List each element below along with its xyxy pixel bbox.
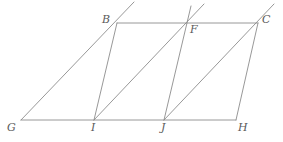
vertex-label-H: H bbox=[238, 122, 248, 133]
vertex-label-J: J bbox=[161, 122, 165, 133]
vertex-label-B: B bbox=[102, 14, 110, 25]
diagonal-G-B-extended bbox=[21, 2, 134, 120]
diagonal-J-C-extended bbox=[164, 4, 274, 120]
side-B-I bbox=[94, 23, 117, 120]
vertex-label-F: F bbox=[190, 24, 198, 35]
segments-group bbox=[21, 2, 274, 120]
vertex-label-I: I bbox=[91, 122, 95, 133]
vertex-label-G: G bbox=[7, 122, 16, 133]
vertex-label-C: C bbox=[262, 14, 270, 25]
side-C-H bbox=[236, 23, 258, 120]
geometry-figure: B F C G I J H bbox=[0, 0, 283, 142]
